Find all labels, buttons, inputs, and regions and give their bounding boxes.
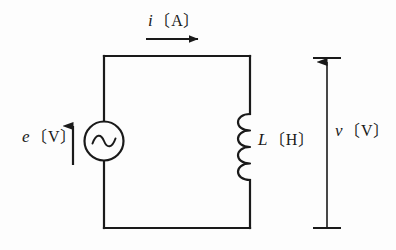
label-inductor-symbol: L — [258, 130, 269, 149]
voltage-measure-arrow — [313, 58, 341, 228]
circuit-diagram-canvas: i〔A〕 e〔V〕 L〔H〕 v〔V〕 — [0, 0, 396, 250]
label-voltage-symbol: v — [335, 121, 344, 140]
label-current-close-bracket: 〕 — [183, 12, 200, 29]
label-source-symbol: e — [22, 127, 31, 146]
label-inductor: L〔H〕 — [258, 131, 315, 148]
label-voltage: v〔V〕 — [335, 122, 390, 139]
label-inductor-open-bracket: 〔 — [269, 131, 286, 148]
label-voltage-open-bracket: 〔 — [344, 122, 361, 139]
label-inductor-unit: H — [286, 131, 298, 148]
label-source-close-bracket: 〕 — [60, 128, 77, 145]
label-source-open-bracket: 〔 — [31, 128, 48, 145]
label-source-unit: V — [48, 128, 60, 145]
circuit-loop-wires — [104, 56, 250, 228]
label-current-open-bracket: 〔 — [154, 12, 171, 29]
label-current-unit: A — [171, 12, 183, 29]
inductor-coil-path — [238, 114, 250, 180]
label-current: i〔A〕 — [148, 12, 200, 29]
label-inductor-close-bracket: 〕 — [298, 131, 315, 148]
label-voltage-unit: V — [361, 122, 373, 139]
inductor-coil — [238, 114, 250, 180]
label-voltage-close-bracket: 〕 — [373, 122, 390, 139]
ac-voltage-source — [85, 122, 124, 161]
label-source-voltage: e〔V〕 — [22, 128, 77, 145]
